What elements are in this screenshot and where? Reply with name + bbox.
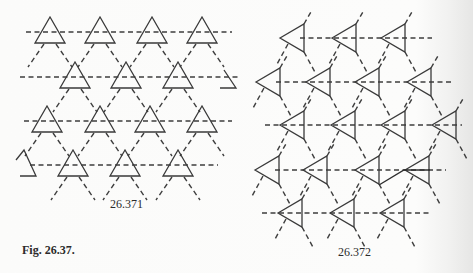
- bond-line: [252, 88, 264, 110]
- bond-line: [431, 54, 439, 68]
- bond-line: [208, 133, 224, 156]
- triangle-up-icon: [60, 62, 90, 88]
- bond-line: [404, 227, 416, 249]
- bond-line: [356, 52, 368, 74]
- bond-line: [299, 176, 311, 198]
- partial-triangle-icon: [220, 70, 236, 88]
- bond-line: [456, 97, 464, 111]
- bond-line: [377, 44, 389, 66]
- bond-line: [251, 176, 263, 198]
- bond-line: [404, 185, 412, 199]
- triangle-up-icon: [163, 62, 193, 88]
- triangle-up-icon: [32, 106, 62, 132]
- bond-line: [405, 139, 417, 161]
- triangle-left-icon: [381, 24, 405, 52]
- triangle-left-icon: [407, 68, 431, 96]
- bond-line: [81, 89, 97, 112]
- bond-line: [379, 184, 391, 206]
- bond-line: [79, 177, 95, 200]
- triangle-up-icon: [85, 106, 115, 132]
- bond-line: [106, 133, 122, 156]
- bond-line: [53, 89, 69, 112]
- bond-line: [302, 185, 310, 199]
- bond-line: [379, 96, 391, 118]
- panel-26-372-lattice: [251, 10, 468, 249]
- bond-line: [327, 184, 339, 206]
- bond-line: [128, 133, 144, 156]
- bond-line: [274, 219, 286, 241]
- bond-line: [327, 142, 335, 156]
- bond-line: [356, 10, 364, 24]
- bond-line: [180, 44, 196, 67]
- partial-triangle-icon: [16, 150, 36, 176]
- bond-line: [354, 185, 362, 199]
- bond-line: [377, 131, 389, 153]
- bond-line: [276, 131, 288, 153]
- bond-line: [330, 96, 342, 118]
- bond-line: [355, 139, 367, 161]
- bond-line: [78, 133, 94, 156]
- triangle-left-icon: [306, 68, 330, 96]
- bond-line: [104, 89, 120, 112]
- bond-line: [25, 133, 41, 156]
- bond-line: [208, 44, 224, 67]
- bond-line: [180, 133, 196, 156]
- bond-line: [106, 44, 122, 67]
- triangle-up-icon: [163, 150, 193, 176]
- bond-line: [405, 52, 417, 74]
- bond-line: [56, 44, 72, 67]
- bond-line: [280, 54, 288, 68]
- bond-line: [431, 96, 443, 118]
- bond-line: [184, 177, 200, 200]
- triangle-up-icon: [111, 62, 141, 88]
- triangle-up-icon: [187, 17, 217, 43]
- triangle-up-icon: [35, 17, 65, 43]
- bond-line: [302, 88, 314, 110]
- bond-line: [376, 219, 388, 241]
- bond-line: [279, 142, 287, 156]
- triangle-left-icon: [355, 68, 379, 96]
- triangle-up-icon: [135, 106, 165, 132]
- bond-line: [401, 176, 413, 198]
- bond-line: [379, 142, 387, 156]
- bond-line: [28, 44, 44, 67]
- panel-label-26-372: 26.372: [338, 245, 371, 260]
- triangle-left-icon: [303, 156, 327, 184]
- bond-line: [456, 139, 468, 161]
- bond-line: [51, 177, 67, 200]
- bond-line: [304, 52, 316, 74]
- highlighted-bond-line: [379, 170, 430, 185]
- figure-canvas: [0, 0, 473, 273]
- triangle-up-icon: [110, 150, 140, 176]
- triangle-up-icon: [85, 17, 115, 43]
- bond-line: [156, 177, 172, 200]
- bond-line: [304, 139, 316, 161]
- bond-line: [403, 88, 415, 110]
- bond-line: [158, 44, 174, 67]
- triangle-up-icon: [58, 150, 88, 176]
- bond-line: [279, 184, 291, 206]
- bond-line: [130, 44, 146, 67]
- bond-line: [328, 44, 340, 66]
- bond-line: [327, 131, 339, 153]
- bond-line: [428, 131, 440, 153]
- bond-line: [280, 96, 292, 118]
- triangle-left-icon: [355, 156, 379, 184]
- triangle-up-icon: [187, 106, 217, 132]
- bond-line: [405, 10, 413, 24]
- bond-line: [276, 44, 288, 66]
- figure-caption: Fig. 26.37.: [22, 243, 75, 258]
- bond-line: [78, 44, 94, 67]
- bond-line: [184, 89, 200, 112]
- panel-26-371-lattice: [16, 17, 238, 200]
- bond-line: [156, 133, 172, 156]
- bond-line: [429, 184, 441, 206]
- bond-line: [53, 133, 69, 156]
- bond-line: [132, 89, 148, 112]
- bond-line: [302, 227, 314, 249]
- bond-line: [326, 219, 338, 241]
- bond-line: [156, 89, 172, 112]
- triangle-up-icon: [137, 17, 167, 43]
- bond-line: [304, 10, 312, 24]
- panel-label-26-371: 26.371: [110, 197, 143, 212]
